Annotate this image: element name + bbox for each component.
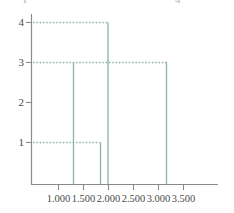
axis-lines xyxy=(31,14,218,185)
x-tick-label-3.500: 3.500 xyxy=(162,193,206,204)
y-tick-label-2: 2 xyxy=(8,97,24,108)
y-tick-label-4: 4 xyxy=(8,17,24,28)
y-axis-ticks xyxy=(26,23,32,143)
step-horizontal-segments xyxy=(33,23,167,143)
step-vertical-droplines xyxy=(74,23,167,185)
x-axis-ticks xyxy=(59,185,184,191)
plot-canvas xyxy=(0,0,234,213)
y-tick-label-1: 1 xyxy=(8,137,24,148)
chart-figure: 1 4 xyxy=(0,0,234,213)
y-tick-label-3: 3 xyxy=(8,57,24,68)
